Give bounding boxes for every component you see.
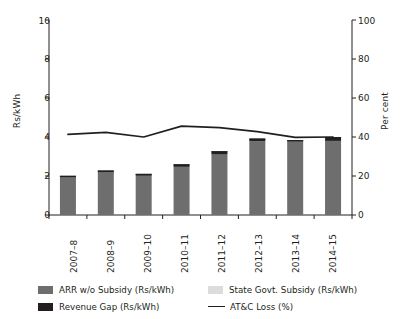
legend-swatch-revenue-gap-icon — [38, 303, 53, 311]
bar-segment-arr — [136, 176, 152, 215]
legend-row-1: ARR w/o Subsidy (Rs/kWh) State Govt. Sub… — [38, 281, 398, 298]
legend-swatch-atc-line-icon — [208, 306, 225, 307]
bar-segment-arr — [249, 141, 265, 215]
bar-segment-arr — [174, 167, 190, 215]
legend-label-revenue-gap: Revenue Gap (Rs/kWh) — [59, 302, 159, 312]
bar-top-edge — [287, 140, 303, 141]
legend-item-state-govt-subsidy[interactable]: State Govt. Subsidy (Rs/kWh) — [208, 285, 398, 295]
chart-legend: ARR w/o Subsidy (Rs/kWh) State Govt. Sub… — [38, 281, 398, 315]
atc-loss-line — [68, 126, 333, 137]
bar-top-edge — [211, 151, 227, 152]
bar-top-edge — [60, 176, 76, 177]
bar-top-edge — [136, 174, 152, 175]
bar-segment-arr — [325, 141, 341, 215]
bar-segment-arr — [211, 155, 227, 215]
legend-row-2: Revenue Gap (Rs/kWh) AT&C Loss (%) — [38, 298, 398, 315]
legend-label-subsidy: State Govt. Subsidy (Rs/kWh) — [229, 285, 357, 295]
bar-top-edge — [98, 171, 114, 172]
plot-area — [0, 0, 405, 319]
bar-segment-arr — [60, 178, 76, 215]
legend-label-arr: ARR w/o Subsidy (Rs/kWh) — [59, 285, 174, 295]
bar-top-edge — [174, 164, 190, 165]
legend-item-arr-wo-subsidy[interactable]: ARR w/o Subsidy (Rs/kWh) — [38, 285, 208, 295]
chart-figure: Rs/kWh Per cent 10 8 6 4 2 0 100 80 60 4… — [0, 0, 405, 319]
bar-segment-arr — [98, 172, 114, 215]
legend-swatch-subsidy-icon — [208, 286, 223, 294]
bar-segment-arr — [287, 142, 303, 215]
legend-item-atc-loss[interactable]: AT&C Loss (%) — [208, 302, 398, 312]
legend-swatch-arr-icon — [38, 286, 53, 294]
legend-label-atc-loss: AT&C Loss (%) — [230, 302, 293, 312]
bar-top-edge — [249, 139, 265, 140]
legend-item-revenue-gap[interactable]: Revenue Gap (Rs/kWh) — [38, 302, 208, 312]
